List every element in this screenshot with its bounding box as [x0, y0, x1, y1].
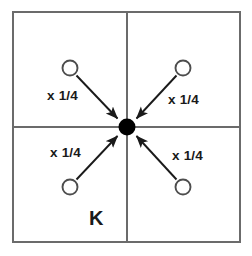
kernel-label: K	[89, 207, 104, 229]
weight-label-top-left: x 1/4	[47, 88, 78, 103]
weight-label-bottom-left: x 1/4	[50, 145, 81, 160]
center-node	[119, 119, 136, 136]
node-bottom-left	[63, 180, 78, 195]
node-top-right	[176, 61, 191, 76]
kernel-diagram: x 1/4 x 1/4 x 1/4 x 1/4 K	[0, 0, 252, 256]
diagram-canvas: x 1/4 x 1/4 x 1/4 x 1/4 K	[0, 0, 252, 256]
weight-label-top-right: x 1/4	[168, 92, 199, 107]
weight-label-bottom-right: x 1/4	[172, 148, 203, 163]
node-bottom-right	[176, 180, 191, 195]
node-top-left	[63, 61, 78, 76]
